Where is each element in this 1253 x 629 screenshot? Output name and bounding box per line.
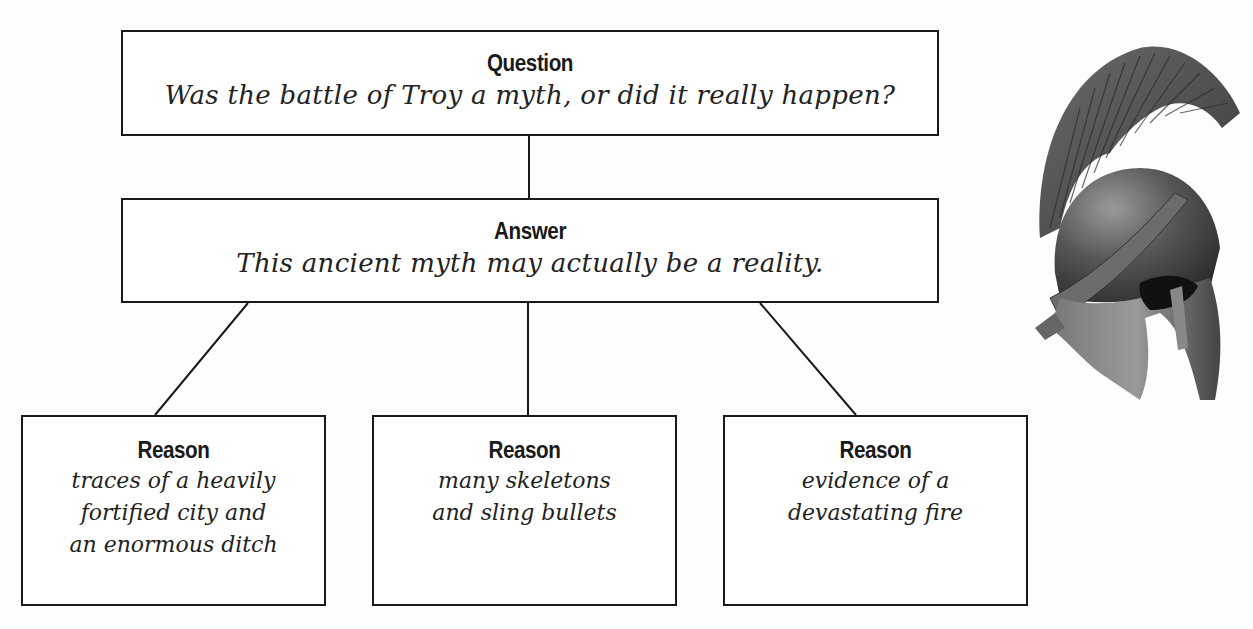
reason-text: evidence of a devastating fire	[725, 465, 1026, 529]
reason-box-3: Reason evidence of a devastating fire	[723, 415, 1028, 606]
reason-line: an enormous ditch	[41, 529, 306, 561]
answer-box: Answer This ancient myth may actually be…	[121, 198, 939, 303]
answer-reason1-connector	[155, 303, 248, 415]
reason-line: devastating fire	[743, 497, 1008, 529]
reason-line: evidence of a	[743, 465, 1008, 497]
question-box: Question Was the battle of Troy a myth, …	[121, 30, 939, 136]
answer-text: This ancient myth may actually be a real…	[123, 246, 937, 280]
answer-reason3-connector	[760, 303, 856, 415]
reason-box-1: Reason traces of a heavily fortified cit…	[21, 415, 326, 606]
reason-line: traces of a heavily	[41, 465, 306, 497]
reason-title: Reason	[44, 437, 303, 463]
reason-title: Reason	[395, 437, 654, 463]
answer-title: Answer	[180, 218, 880, 244]
reason-text: many skeletons and sling bullets	[374, 465, 675, 529]
answer-organizer-diagram: Question Was the battle of Troy a myth, …	[0, 0, 1253, 629]
reason-title: Reason	[746, 437, 1005, 463]
question-title: Question	[180, 50, 880, 76]
reason-line: and sling bullets	[392, 497, 657, 529]
question-text: Was the battle of Troy a myth, or did it…	[123, 78, 937, 112]
reason-text: traces of a heavily fortified city and a…	[23, 465, 324, 561]
reason-line: many skeletons	[392, 465, 657, 497]
reason-box-2: Reason many skeletons and sling bullets	[372, 415, 677, 606]
greek-helmet-icon	[1010, 28, 1240, 400]
reason-line: fortified city and	[41, 497, 306, 529]
